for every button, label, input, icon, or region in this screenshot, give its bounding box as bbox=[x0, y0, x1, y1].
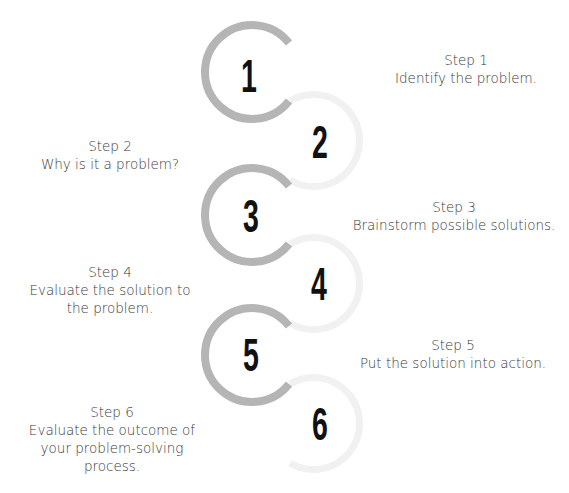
step-number-3: 3 bbox=[239, 194, 264, 238]
step-number-6: 6 bbox=[308, 402, 333, 446]
step-6-description: Evaluate the outcome of your problem-sol… bbox=[14, 421, 210, 475]
step-3-title: Step 3 bbox=[348, 198, 560, 216]
step-6-text: Step 6 Evaluate the outcome of your prob… bbox=[14, 403, 210, 475]
step-4-text: Step 4 Evaluate the solution to the prob… bbox=[25, 263, 195, 317]
step-1-title: Step 1 bbox=[376, 51, 556, 69]
step-4-title: Step 4 bbox=[25, 263, 195, 281]
step-2-title: Step 2 bbox=[20, 137, 200, 155]
step-2-text: Step 2 Why is it a problem? bbox=[20, 137, 200, 173]
step-5-description: Put the solution into action. bbox=[353, 354, 553, 372]
step-5-title: Step 5 bbox=[353, 336, 553, 354]
step-1-text: Step 1 Identify the problem. bbox=[376, 51, 556, 87]
step-number-4: 4 bbox=[307, 262, 332, 306]
step-2-description: Why is it a problem? bbox=[20, 155, 200, 173]
step-3-description: Brainstorm possible solutions. bbox=[348, 216, 560, 234]
step-1-description: Identify the problem. bbox=[376, 69, 556, 87]
step-6-title: Step 6 bbox=[14, 403, 210, 421]
step-number-2: 2 bbox=[308, 120, 333, 164]
problem-solving-steps-diagram: 1 2 3 4 5 6 Step 1 Identify the problem.… bbox=[0, 0, 569, 493]
step-4-description: Evaluate the solution to the problem. bbox=[25, 281, 195, 317]
step-number-1: 1 bbox=[237, 54, 262, 98]
step-3-text: Step 3 Brainstorm possible solutions. bbox=[348, 198, 560, 234]
step-number-5: 5 bbox=[239, 333, 264, 377]
step-5-text: Step 5 Put the solution into action. bbox=[353, 336, 553, 372]
